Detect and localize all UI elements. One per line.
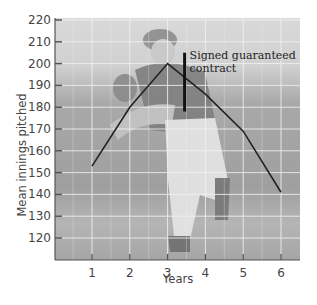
y-tick-label: 150 — [28, 166, 51, 180]
line-chart: 120130140150160170180190200210220 123456… — [0, 0, 317, 305]
x-tick-label: 2 — [126, 266, 134, 280]
y-tick-label: 220 — [28, 13, 51, 27]
y-tick-label: 200 — [28, 57, 51, 71]
y-tick-label: 120 — [28, 231, 51, 245]
y-tick-label: 210 — [28, 35, 51, 49]
x-tick-label: 4 — [202, 266, 210, 280]
y-tick-label: 180 — [28, 100, 51, 114]
y-tick-label: 130 — [28, 209, 51, 223]
x-tick-label: 6 — [277, 266, 285, 280]
annotation-text: contract — [190, 62, 237, 75]
y-tick-label: 190 — [28, 78, 51, 92]
annotation-text: Signed guaranteed — [190, 49, 296, 62]
x-tick-label: 5 — [239, 266, 247, 280]
y-tick-label: 170 — [28, 122, 51, 136]
x-tick-label: 1 — [88, 266, 96, 280]
x-axis-label: Years — [162, 272, 193, 286]
y-tick-label: 160 — [28, 144, 51, 158]
y-axis-label: Mean innings pitched — [15, 93, 29, 216]
y-tick-label: 140 — [28, 187, 51, 201]
